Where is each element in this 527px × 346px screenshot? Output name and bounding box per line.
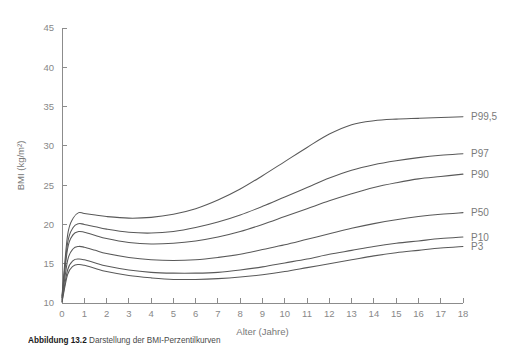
x-tick-label: 11 [302,308,312,319]
y-tick-label: 45 [43,22,54,33]
x-tick-label: 18 [458,308,469,319]
series-label-P50: P50 [471,207,489,218]
y-tick-label: 40 [43,62,54,73]
y-axis-title: BMI (kg/m²) [15,141,26,191]
series-label-P995: P99,5 [471,111,498,122]
x-tick-label: 8 [238,308,243,319]
x-tick-label: 10 [279,308,290,319]
x-tick-label: 3 [126,308,131,319]
y-tick-label: 25 [43,180,54,191]
x-tick-label: 12 [324,308,335,319]
figure-number: Abbildung 13.2 [28,336,87,345]
x-tick-label: 13 [346,308,357,319]
figure-caption-text: Darstellung der BMI-Perzentilkurven [89,336,221,345]
series-label-P90: P90 [471,169,489,180]
y-tick-label: 10 [43,297,54,308]
y-tick-label: 20 [43,219,54,230]
x-tick-label: 1 [82,308,87,319]
curve-P10 [62,237,463,301]
curve-P50 [62,213,463,300]
x-tick-label: 9 [260,308,265,319]
y-tick-label: 35 [43,101,54,112]
x-tick-label: 5 [171,308,176,319]
x-tick-label: 4 [148,308,153,319]
x-tick-label: 7 [215,308,220,319]
y-tick-label: 15 [43,258,54,269]
x-tick-label: 15 [391,308,402,319]
x-tick-label: 14 [369,308,380,319]
x-tick-label: 17 [435,308,446,319]
curve-P90 [62,174,463,298]
figure-caption: Abbildung 13.2 Darstellung der BMI-Perze… [28,336,523,346]
series-label-P3: P3 [471,241,484,252]
y-tick-label: 30 [43,140,54,151]
x-tick-label: 2 [104,308,109,319]
x-tick-label: 0 [59,308,64,319]
x-tick-label: 16 [413,308,424,319]
series-label-P97: P97 [471,148,489,159]
x-tick-label: 6 [193,308,198,319]
curve-P3 [62,246,463,302]
